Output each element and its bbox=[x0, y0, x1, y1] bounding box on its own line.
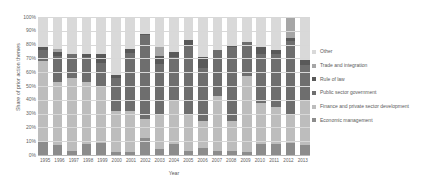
legend-swatch-icon bbox=[312, 50, 316, 54]
grid-line bbox=[38, 100, 310, 101]
bar-segment bbox=[155, 56, 165, 64]
bar-segment bbox=[169, 101, 179, 144]
grid-line bbox=[38, 72, 310, 73]
bar-segment bbox=[256, 47, 266, 54]
legend-swatch-icon bbox=[312, 64, 316, 68]
legend-item[interactable]: Public sector government bbox=[312, 86, 436, 100]
bar-segment bbox=[198, 17, 208, 57]
bar-segment bbox=[256, 17, 266, 47]
x-axis-tick-label: 2000 bbox=[110, 158, 124, 168]
bar-segment bbox=[227, 121, 237, 151]
bar-segment bbox=[198, 121, 208, 149]
legend-label: Finance and private sector development bbox=[320, 104, 409, 109]
bar-segment bbox=[96, 63, 106, 86]
x-axis-tick-label: 1999 bbox=[95, 158, 109, 168]
x-axis-tick-label: 2008 bbox=[224, 158, 238, 168]
y-axis-tick-label: 80% bbox=[8, 42, 36, 47]
plot-area bbox=[38, 17, 310, 155]
x-axis-tick-label: 2002 bbox=[138, 158, 152, 168]
legend-label: Rule of law bbox=[320, 77, 345, 82]
bar-segment bbox=[140, 35, 150, 119]
x-axis-tick-labels: 1995199619971998199920002001200220032004… bbox=[38, 158, 310, 168]
bar-segment bbox=[286, 143, 296, 155]
grid-line bbox=[38, 31, 310, 32]
x-axis-tick-label: 1996 bbox=[52, 158, 66, 168]
y-axis-tick-label: 60% bbox=[8, 70, 36, 75]
bar-segment bbox=[271, 107, 281, 144]
bar-segment bbox=[286, 41, 296, 114]
x-axis-tick-label: 2006 bbox=[195, 158, 209, 168]
bar-segment bbox=[82, 144, 92, 155]
bar-segment bbox=[96, 17, 106, 54]
bar-segment bbox=[67, 17, 77, 54]
grid-line bbox=[38, 141, 310, 142]
bar-segment bbox=[198, 148, 208, 155]
legend-item[interactable]: Economic management bbox=[312, 113, 436, 127]
bar-segment bbox=[184, 17, 194, 40]
bar-segment bbox=[300, 65, 310, 100]
bar-segment bbox=[300, 145, 310, 155]
x-axis-tick-label: 1997 bbox=[67, 158, 81, 168]
bar-segment bbox=[300, 17, 310, 60]
y-axis-tick-label: 90% bbox=[8, 28, 36, 33]
grid-line bbox=[38, 127, 310, 128]
x-axis-tick-label: 2005 bbox=[181, 158, 195, 168]
y-axis-tick-labels: 100%90%80%70%60%50%40%30%20%10%0% bbox=[8, 0, 36, 186]
bar-segment bbox=[184, 115, 194, 151]
x-axis-tick-label: 2001 bbox=[124, 158, 138, 168]
y-axis-tick-label: 30% bbox=[8, 111, 36, 116]
legend-item[interactable]: Other bbox=[312, 45, 436, 59]
bar-segment bbox=[53, 56, 63, 82]
stacked-bar-chart: Share of prior action themes 100%90%80%7… bbox=[0, 0, 436, 186]
bar-segment bbox=[155, 17, 165, 47]
legend-label: Trade and integration bbox=[320, 63, 367, 68]
x-axis-line bbox=[38, 155, 310, 156]
y-axis-tick-label: 0% bbox=[8, 153, 36, 158]
bar-segment bbox=[111, 111, 121, 152]
bar-segment bbox=[53, 145, 63, 155]
y-axis-tick-label: 50% bbox=[8, 84, 36, 89]
bar-segment bbox=[184, 46, 194, 115]
bar-segment bbox=[256, 103, 266, 144]
bar-segment bbox=[96, 143, 106, 155]
bar-segment bbox=[300, 100, 310, 146]
y-axis-tick-label: 20% bbox=[8, 125, 36, 130]
bar-segment bbox=[111, 17, 121, 75]
bar-segment bbox=[155, 114, 165, 150]
x-axis-tick-label: 2010 bbox=[253, 158, 267, 168]
x-axis-tick-label: 2013 bbox=[296, 158, 310, 168]
y-axis-tick-label: 10% bbox=[8, 139, 36, 144]
legend-swatch-icon bbox=[312, 77, 316, 81]
grid-line bbox=[38, 58, 310, 59]
bar-segment bbox=[169, 57, 179, 101]
bar-segment bbox=[82, 57, 92, 82]
grid-line bbox=[38, 114, 310, 115]
bar-segment bbox=[82, 17, 92, 54]
bar-segment bbox=[111, 78, 121, 111]
bar-segment bbox=[125, 53, 135, 111]
legend-swatch-icon bbox=[312, 118, 316, 122]
y-axis-tick-label: 100% bbox=[8, 15, 36, 20]
y-axis-tick-label: 70% bbox=[8, 56, 36, 61]
x-axis-title: Year bbox=[38, 170, 310, 176]
grid-line bbox=[38, 17, 310, 18]
legend-label: Public sector government bbox=[320, 90, 376, 95]
bar-segment bbox=[38, 50, 48, 61]
bar-segment bbox=[155, 47, 165, 55]
bar-segment bbox=[169, 17, 179, 52]
x-axis-tick-label: 2012 bbox=[281, 158, 295, 168]
x-axis-tick-label: 2011 bbox=[267, 158, 281, 168]
legend-item[interactable]: Rule of law bbox=[312, 72, 436, 86]
bar-segment bbox=[271, 144, 281, 155]
grid-line bbox=[38, 45, 310, 46]
grid-line bbox=[38, 86, 310, 87]
legend-item[interactable]: Trade and integration bbox=[312, 59, 436, 73]
x-axis-tick-label: 2009 bbox=[238, 158, 252, 168]
legend-label: Other bbox=[320, 49, 333, 54]
bar-segment bbox=[213, 96, 223, 151]
x-axis-tick-label: 2004 bbox=[167, 158, 181, 168]
bar-segment bbox=[286, 17, 296, 38]
x-axis-tick-label: 1995 bbox=[38, 158, 52, 168]
legend-item[interactable]: Finance and private sector development bbox=[312, 100, 436, 114]
x-axis-tick-label: 2003 bbox=[153, 158, 167, 168]
